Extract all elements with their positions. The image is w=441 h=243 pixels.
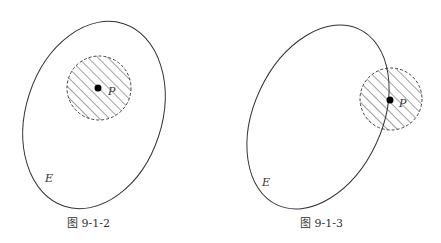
figure-caption: 图 9-1-3 (300, 217, 343, 230)
point-p-label: P (107, 85, 116, 98)
figure-caption: 图 9-1-2 (67, 217, 110, 230)
point-p (95, 85, 102, 92)
set-e-label: E (261, 176, 270, 189)
figure-left: P E 图 9-1-2 (0, 3, 188, 230)
diagram-canvas: P E 图 9-1-2 P E 图 9-1-3 (0, 0, 441, 243)
set-e-label: E (44, 172, 53, 185)
point-p (387, 97, 394, 104)
figure-right: P E 图 9-1-3 (219, 2, 422, 232)
point-p-label: P (398, 97, 407, 110)
